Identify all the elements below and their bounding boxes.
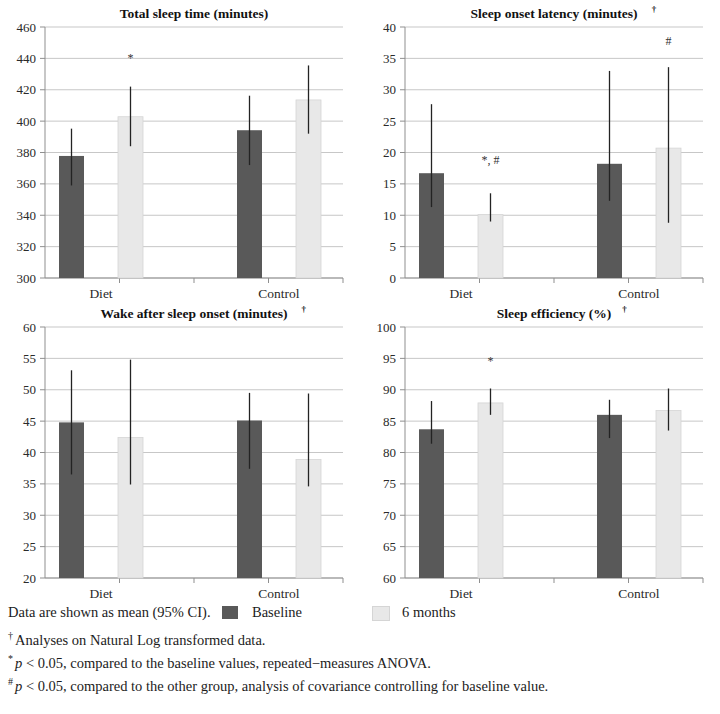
chart-svg: Sleep efficiency (%)†6065707580859095100… [360, 300, 720, 600]
y-tick-label: 30 [23, 508, 36, 523]
bar-six-months [656, 410, 681, 578]
y-tick-label: 80 [383, 445, 396, 460]
figure-panels: Total sleep time (minutes)30032034036038… [0, 0, 720, 600]
y-tick-label: 340 [17, 208, 37, 223]
y-tick-label: 75 [383, 476, 396, 491]
y-tick-label: 45 [23, 414, 36, 429]
y-tick-label: 50 [23, 382, 36, 397]
y-tick-label: 360 [17, 176, 37, 191]
footnote-marker-dagger: † [8, 630, 13, 641]
x-group-label: Diet [89, 586, 112, 600]
y-tick-label: 400 [17, 114, 37, 129]
y-tick-label: 0 [390, 271, 397, 286]
y-tick-label: 35 [23, 476, 36, 491]
y-tick-label: 60 [383, 571, 396, 586]
chart-title-dagger: † [302, 304, 307, 314]
y-tick-label: 380 [17, 145, 37, 160]
footnote-hash: #p < 0.05, compared to the other group, … [0, 670, 720, 693]
y-tick-label: 20 [383, 145, 396, 160]
y-tick-label: 35 [383, 51, 396, 66]
chart-svg: Sleep onset latency (minutes)†0510152025… [360, 0, 720, 300]
figure-legend: Data are shown as mean (95% CI). Baselin… [0, 600, 720, 624]
y-tick-label: 25 [23, 539, 36, 554]
x-group-label: Control [618, 286, 660, 300]
y-tick-label: 40 [383, 20, 396, 35]
significance-marker: # [666, 34, 672, 48]
footnote-text-dagger: Analyses on Natural Log transformed data… [15, 632, 265, 648]
x-group-label: Control [258, 586, 300, 600]
y-tick-label: 5 [390, 239, 397, 254]
x-group-label: Diet [89, 286, 112, 300]
figure-footnotes: Data are shown as mean (95% CI). Baselin… [0, 600, 720, 714]
y-tick-label: 15 [383, 176, 396, 191]
footnote-text-asterisk: p < 0.05, compared to the baseline value… [15, 655, 431, 671]
y-tick-label: 20 [23, 571, 36, 586]
significance-marker: * [128, 51, 134, 65]
chart-panel-sleep-efficiency: Sleep efficiency (%)†6065707580859095100… [360, 300, 720, 600]
footnote-text-hash: p < 0.05, compared to the other group, a… [15, 678, 548, 694]
legend-swatch-baseline [222, 606, 238, 619]
y-tick-label: 70 [383, 508, 396, 523]
significance-marker: *, # [482, 153, 500, 167]
bar-baseline [419, 429, 444, 578]
y-tick-label: 320 [17, 239, 37, 254]
footnote-marker-hash: # [8, 676, 13, 687]
y-tick-label: 95 [383, 351, 396, 366]
y-tick-label: 30 [383, 82, 396, 97]
chart-panel-total-sleep-time: Total sleep time (minutes)30032034036038… [0, 0, 360, 300]
y-tick-label: 440 [17, 51, 37, 66]
footnote-asterisk: *p < 0.05, compared to the baseline valu… [0, 647, 720, 670]
chart-title: Sleep onset latency (minutes) [471, 6, 638, 21]
chart-svg: Total sleep time (minutes)30032034036038… [0, 0, 360, 300]
chart-title: Wake after sleep onset (minutes) [100, 306, 287, 321]
x-group-label: Control [618, 586, 660, 600]
chart-panel-sleep-onset-latency: Sleep onset latency (minutes)†0510152025… [360, 0, 720, 300]
y-tick-label: 460 [17, 20, 37, 35]
y-tick-label: 420 [17, 82, 37, 97]
bar-six-months [478, 215, 503, 278]
bar-baseline [597, 415, 622, 578]
x-group-label: Diet [449, 586, 472, 600]
footnote-marker-asterisk: * [8, 653, 13, 664]
y-tick-label: 300 [17, 271, 37, 286]
significance-marker: * [488, 354, 494, 368]
footnote-dagger: †Analyses on Natural Log transformed dat… [0, 624, 720, 647]
y-tick-label: 85 [383, 414, 396, 429]
chart-panel-wake-after-sleep-onset: Wake after sleep onset (minutes)†2025303… [0, 300, 360, 600]
legend-label-baseline: Baseline [252, 600, 302, 624]
y-tick-label: 40 [23, 445, 36, 460]
legend-label-six-months: 6 months [402, 600, 456, 624]
chart-title-dagger: † [652, 4, 657, 14]
y-tick-label: 65 [383, 539, 396, 554]
x-group-label: Diet [449, 286, 472, 300]
y-tick-label: 60 [23, 320, 36, 335]
chart-title-dagger: † [622, 304, 627, 314]
chart-title: Total sleep time (minutes) [120, 6, 268, 21]
bar-six-months [478, 403, 503, 578]
legend-swatch-six-months [372, 606, 390, 621]
x-group-label: Control [258, 286, 300, 300]
y-tick-label: 10 [383, 208, 396, 223]
y-tick-label: 90 [383, 382, 396, 397]
chart-title: Sleep efficiency (%) [497, 306, 612, 321]
legend-lead-text: Data are shown as mean (95% CI). [8, 600, 211, 624]
chart-svg: Wake after sleep onset (minutes)†2025303… [0, 300, 360, 600]
y-tick-label: 100 [377, 320, 397, 335]
y-tick-label: 55 [23, 351, 36, 366]
y-tick-label: 25 [383, 114, 396, 129]
